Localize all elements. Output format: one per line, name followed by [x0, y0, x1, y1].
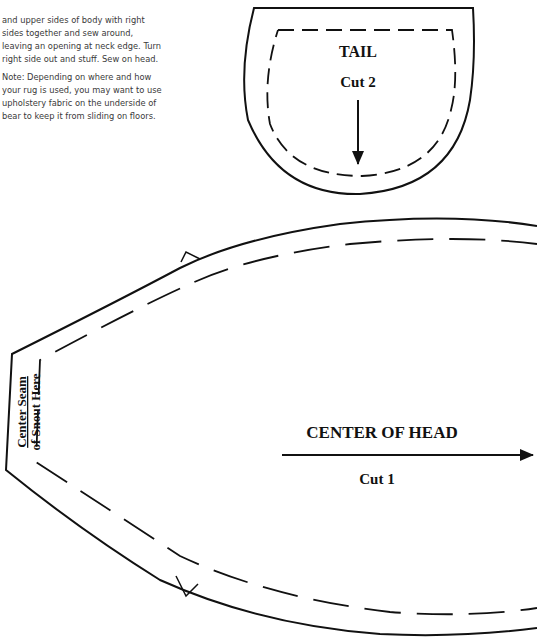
bottom-notch-icon	[176, 576, 198, 596]
head-title: CENTER OF HEAD	[306, 423, 457, 442]
tail-cut-line	[244, 8, 474, 194]
head-seam-line	[36, 239, 537, 614]
snout-label-line2: of Snout Here	[28, 373, 43, 450]
tail-cut-count: Cut 2	[340, 74, 375, 90]
pattern-pieces: TAIL Cut 2 Center Seam of Snout Here CEN…	[0, 0, 537, 638]
snout-label: Center Seam of Snout Here	[14, 373, 43, 450]
head-pattern-piece: Center Seam of Snout Here CENTER OF HEAD…	[5, 218, 537, 635]
tail-title: TAIL	[339, 43, 377, 60]
head-cut-count: Cut 1	[359, 471, 394, 487]
tail-pattern-piece: TAIL Cut 2	[244, 8, 474, 194]
snout-label-line1: Center Seam	[14, 376, 29, 448]
